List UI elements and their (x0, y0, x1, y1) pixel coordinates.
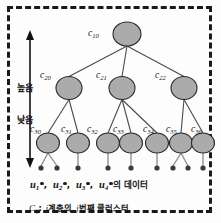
legend-marker-dot (86, 182, 89, 185)
cluster-node-c10[interactable] (113, 22, 141, 46)
node-label-c22: c22 (155, 70, 166, 80)
node-label-c32: c32 (87, 124, 98, 134)
node-label-c21: c21 (96, 70, 107, 80)
data-point-dot[interactable] (54, 165, 59, 170)
data-point-dot[interactable] (128, 165, 133, 170)
legend-separator: , (67, 180, 76, 190)
data-point-dot[interactable] (154, 165, 159, 170)
cluster-node-c32[interactable] (97, 133, 120, 153)
legend-data-users: u1, u2, u3, u4의 데이터 (30, 178, 205, 190)
caption-cluster-notation: Cij: i계층의 j번째 클러스터 (29, 197, 129, 215)
data-point-dot[interactable] (38, 165, 43, 170)
data-point-dot[interactable] (170, 165, 175, 170)
cluster-node-c36[interactable] (192, 133, 215, 153)
legend-separator: , (44, 180, 53, 190)
node-label-c20: c20 (40, 70, 51, 80)
cluster-node-c20[interactable] (56, 77, 82, 100)
leaf-stem (173, 153, 181, 166)
tree-edge (181, 100, 184, 134)
legend-marker-dot (109, 182, 112, 185)
legend-separator: , (90, 180, 99, 190)
cluster-node-c21[interactable] (109, 77, 135, 100)
legend-suffix: 의 데이터 (113, 180, 148, 190)
data-point-dots (38, 165, 205, 170)
legend-marker-dot (40, 182, 43, 185)
figure-root: c10c20c21c22c30c31c32c33c34c35c36 높음 낮음 … (0, 0, 221, 223)
leaf-stems (41, 153, 203, 166)
cluster-node-c22[interactable] (171, 77, 197, 100)
leaf-stem (48, 153, 57, 166)
data-point-dot[interactable] (105, 165, 110, 170)
vertical-axis-arrow (26, 30, 34, 168)
node-label-c36: c36 (191, 124, 202, 134)
legend-user-u2: u2 (53, 179, 62, 190)
tree-edge (122, 46, 127, 77)
cluster-node-c33[interactable] (120, 133, 143, 153)
cluster-node-c35[interactable] (170, 133, 193, 153)
legend-marker-dot (63, 182, 66, 185)
legend-user-u3: u3 (76, 179, 85, 190)
data-point-dot[interactable] (200, 165, 205, 170)
cluster-node-c31[interactable] (67, 133, 90, 153)
leaf-stem (181, 153, 188, 166)
cluster-node-c34[interactable] (146, 133, 169, 153)
axis-label-low: 낮음 (17, 113, 33, 126)
data-point-dot[interactable] (75, 165, 80, 170)
caption-mid: 계층의 (48, 203, 72, 213)
node-label-c31: c31 (61, 124, 72, 134)
axis-label-high: 높음 (17, 81, 33, 94)
data-point-dot[interactable] (185, 165, 190, 170)
node-label-c35: c35 (166, 124, 177, 134)
caption-end: 번째 클러스터 (79, 203, 130, 213)
legend-user-u1: u1 (30, 179, 39, 190)
legend-user-u4: u4 (99, 179, 108, 190)
node-label-c33: c33 (113, 124, 124, 134)
caption-colon: : (38, 203, 41, 213)
node-label-c34: c34 (143, 124, 154, 134)
cluster-node-c30[interactable] (37, 133, 60, 153)
node-label-c10: c10 (88, 28, 99, 38)
leaf-stem (41, 153, 48, 166)
